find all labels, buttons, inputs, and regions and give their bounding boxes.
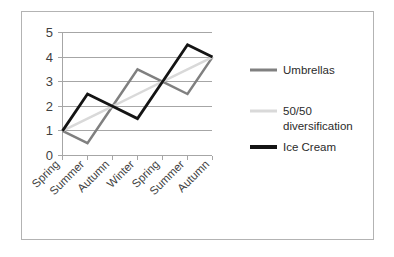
y-tick-label-3: 3 [46, 74, 53, 89]
y-tickmarks [58, 33, 62, 156]
x-tick-labels: Spring Summer Autumn Winter Spring Summe… [29, 158, 211, 197]
legend-label-ice-cream: Ice Cream [283, 141, 336, 153]
legend-label-diversification-line1: 50/50 [283, 105, 312, 117]
legend-label-umbrellas: Umbrellas [283, 64, 335, 76]
series-layer [63, 45, 213, 143]
y-tick-labels: 5 4 3 2 1 0 [46, 25, 53, 163]
y-tick-label-5: 5 [46, 25, 53, 40]
chart-legend: Umbrellas 50/50 diversification Ice Crea… [250, 64, 353, 153]
y-tick-label-2: 2 [46, 99, 53, 114]
y-tick-label-4: 4 [46, 50, 53, 65]
y-tick-label-1: 1 [46, 123, 53, 138]
legend-label-diversification-line2: diversification [283, 120, 353, 132]
series-line-ice-cream [63, 45, 213, 131]
x-tickmarks [63, 156, 213, 161]
seasonal-line-chart: 5 4 3 2 1 0 Spring Summer Autumn Winter … [22, 12, 373, 239]
chart-figure: 5 4 3 2 1 0 Spring Summer Autumn Winter … [21, 11, 374, 240]
